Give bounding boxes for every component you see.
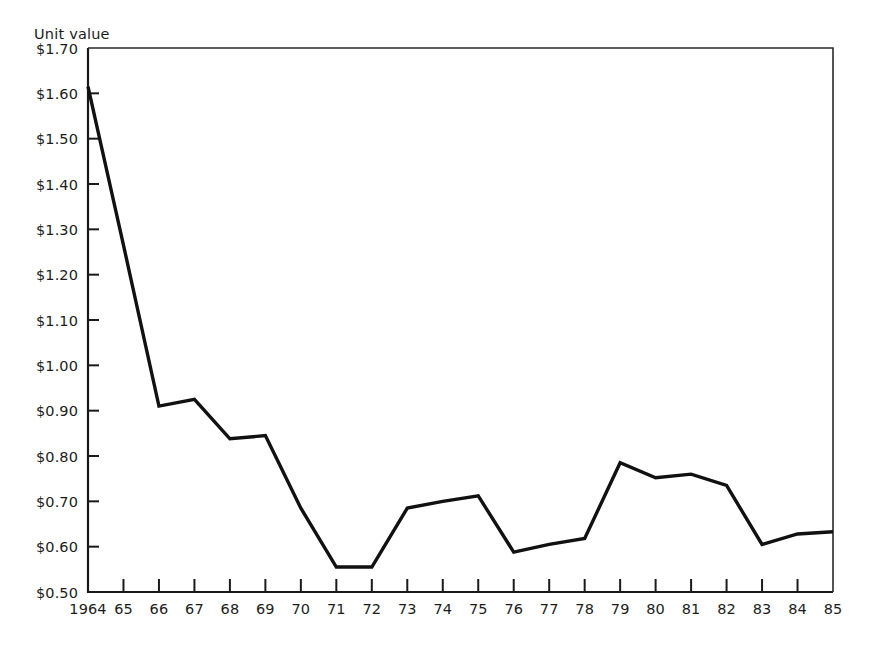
plot-border (88, 48, 833, 592)
x-tick-label: 70 (292, 601, 311, 617)
y-tick-label: $0.90 (36, 403, 78, 419)
y-tick-label: $0.70 (36, 494, 78, 510)
x-tick-label: 77 (540, 601, 559, 617)
x-tick-label: 66 (150, 601, 169, 617)
y-tick-label: $1.00 (36, 358, 78, 374)
y-axis-ticks: $1.70$1.60$1.50$1.40$1.30$1.20$1.10$1.00… (36, 41, 99, 601)
y-tick-label: $0.80 (36, 449, 78, 465)
x-axis-ticks: 1964656667686970717273747576777879808182… (69, 579, 842, 617)
x-tick-label: 78 (575, 601, 594, 617)
x-tick-label: 71 (327, 601, 346, 617)
unit-value-line (88, 87, 833, 568)
x-tick-label: 72 (362, 601, 381, 617)
data-series-unit-value (88, 87, 833, 568)
y-tick-label: $1.20 (36, 267, 78, 283)
axis-lines (88, 48, 833, 592)
y-tick-label: $0.50 (36, 585, 78, 601)
x-tick-label: 75 (469, 601, 488, 617)
y-tick-label: $1.30 (36, 222, 78, 238)
x-tick-label: 85 (824, 601, 843, 617)
y-tick-label: $1.70 (36, 41, 78, 57)
y-tick-label: $1.60 (36, 86, 78, 102)
x-tick-label: 82 (717, 601, 736, 617)
x-tick-label: 79 (611, 601, 630, 617)
y-tick-label: $0.60 (36, 539, 78, 555)
x-tick-label: 65 (114, 601, 133, 617)
x-tick-label: 73 (398, 601, 417, 617)
x-tick-label: 83 (753, 601, 772, 617)
x-tick-label: 80 (646, 601, 665, 617)
x-tick-label: 69 (256, 601, 275, 617)
y-tick-label: $1.10 (36, 313, 78, 329)
x-tick-label: 67 (185, 601, 204, 617)
x-tick-label: 1964 (69, 601, 106, 617)
chart-container: Unit value $1.70$1.60$1.50$1.40$1.30$1.2… (0, 0, 886, 652)
x-tick-label: 74 (433, 601, 452, 617)
x-tick-label: 68 (221, 601, 240, 617)
x-tick-label: 84 (788, 601, 807, 617)
y-tick-label: $1.50 (36, 131, 78, 147)
y-tick-label: $1.40 (36, 177, 78, 193)
line-chart-plot: $1.70$1.60$1.50$1.40$1.30$1.20$1.10$1.00… (0, 0, 886, 652)
x-tick-label: 76 (504, 601, 523, 617)
plot-frame (88, 48, 833, 592)
x-tick-label: 81 (682, 601, 701, 617)
